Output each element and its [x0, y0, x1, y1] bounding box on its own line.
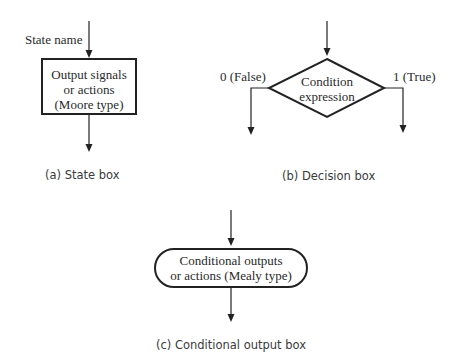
state-name-label: State name [25, 32, 83, 47]
decision-true-branch-arrow [384, 88, 407, 133]
conditional-box-text-line-1: Conditional outputs [180, 253, 283, 268]
true-branch-label: 1 (True) [393, 69, 436, 84]
state-box-outgoing-arrow [86, 114, 93, 152]
diagram-canvas: State name Output signals or actions (Mo… [0, 0, 454, 364]
state-box-incoming-arrow [86, 21, 93, 58]
state-box-text-line-3: (Moore type) [55, 97, 124, 112]
asm-chart-elements-diagram: State name Output signals or actions (Mo… [0, 0, 454, 364]
conditional-box-outgoing-arrow [228, 287, 235, 322]
conditional-box-group: Conditional outputs or actions (Mealy ty… [155, 210, 307, 352]
decision-text-line-2: expression [299, 89, 355, 104]
false-branch-label: 0 (False) [220, 69, 266, 84]
conditional-box-text-line-2: or actions (Mealy type) [170, 268, 292, 283]
decision-box-group: Condition expression 0 (False) 1 (True) … [220, 21, 436, 183]
state-box-text-line-2: or actions [64, 82, 115, 97]
decision-box-incoming-arrow [324, 21, 331, 56]
decision-text-line-1: Condition [301, 74, 354, 89]
conditional-box-caption: (c) Conditional output box [156, 338, 306, 352]
decision-false-branch-arrow [248, 88, 270, 135]
state-box-caption: (a) State box [45, 168, 120, 182]
state-box-group: State name Output signals or actions (Mo… [25, 21, 136, 182]
conditional-box-incoming-arrow [228, 210, 235, 246]
state-box-text-line-1: Output signals [51, 67, 126, 82]
decision-box-caption: (b) Decision box [282, 169, 376, 183]
